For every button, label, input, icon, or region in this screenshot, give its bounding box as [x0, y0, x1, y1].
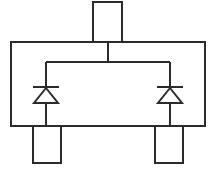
- pin-bottom-right: [155, 126, 183, 163]
- schematic-diagram: [0, 0, 216, 169]
- pin-top-center: [93, 2, 122, 42]
- pin-bottom-left: [33, 126, 61, 163]
- schematic-canvas: [0, 0, 216, 169]
